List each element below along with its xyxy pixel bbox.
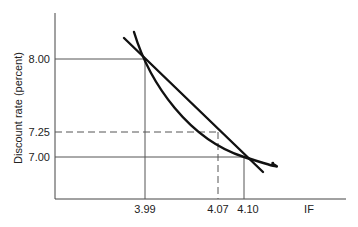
- reference-7-25: [55, 132, 218, 199]
- chart: 8.00 7.25 7.00 3.99 4.07 4.10 IF Discoun…: [0, 0, 358, 227]
- y-tick-7-25: 7.25: [29, 126, 50, 138]
- y-tick-7-00: 7.00: [29, 151, 50, 163]
- y-tick-8-00: 8.00: [29, 53, 50, 65]
- x-tick-4-07: 4.07: [207, 203, 228, 215]
- reference-8-00: [55, 59, 145, 199]
- curved-line-series: [134, 32, 277, 167]
- x-tick-3-99: 3.99: [134, 203, 155, 215]
- y-axis-label: Discount rate (percent): [12, 52, 24, 164]
- reference-7-00: [55, 157, 244, 199]
- x-axis-label: IF: [304, 203, 314, 215]
- x-tick-4-10: 4.10: [237, 203, 258, 215]
